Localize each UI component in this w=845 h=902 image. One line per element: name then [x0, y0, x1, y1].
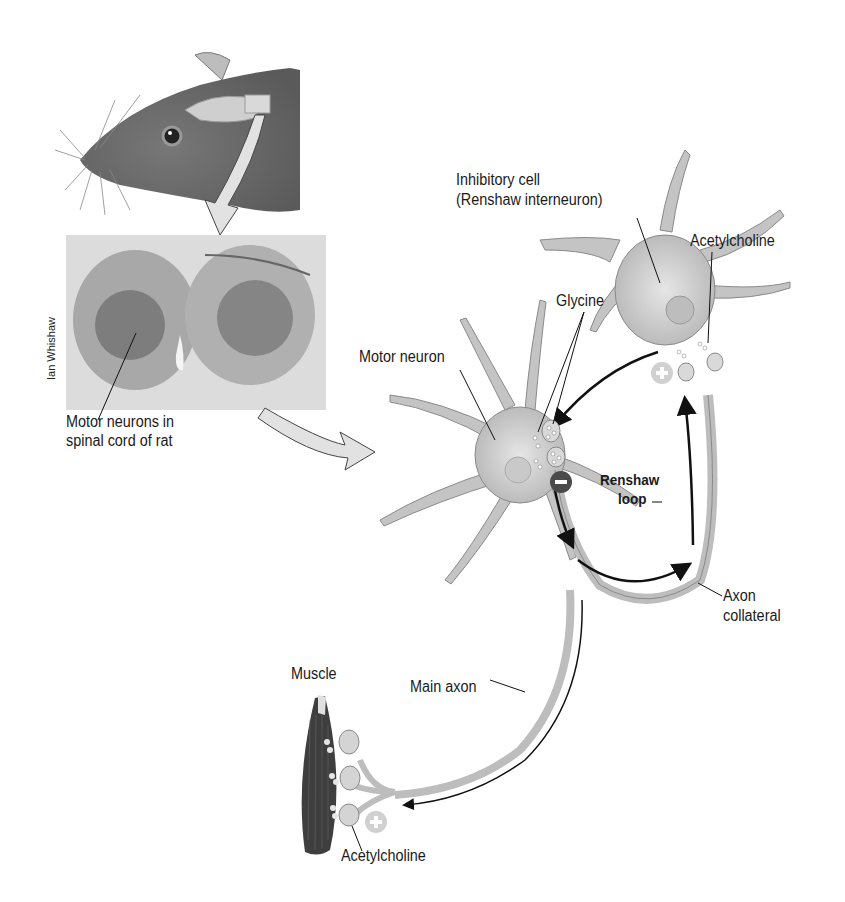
diagram-artwork — [0, 0, 845, 902]
renshaw-loop-diagram: Ian Whishaw Motor neurons in spinal cord… — [0, 0, 845, 902]
photo-credit: Ian Whishaw — [45, 317, 57, 380]
label-inhibitory-cell-line2: (Renshaw interneuron) — [456, 190, 602, 209]
acetylcholine-terminals-top — [677, 342, 723, 381]
label-axon-collateral-line2: collateral — [723, 606, 781, 625]
label-renshaw-loop-line1: Renshaw — [600, 470, 659, 489]
muscle-illustration — [302, 695, 339, 855]
label-axon-collateral-line1: Axon — [723, 586, 756, 605]
label-muscle: Muscle — [291, 664, 337, 683]
inhibitory-minus-icon — [550, 471, 572, 493]
excitatory-plus-icon-bottom — [365, 811, 387, 833]
collateral-up-arrow — [685, 400, 693, 545]
neuromuscular-terminals — [339, 730, 395, 826]
label-spinal-cord-line2: spinal cord of rat — [66, 431, 172, 450]
rat-head-illustration — [55, 52, 300, 235]
renshaw-inhibit-arrow — [555, 352, 658, 425]
label-renshaw-loop-line2: loop — [618, 489, 646, 508]
label-main-axon: Main axon — [410, 677, 476, 696]
label-spinal-cord-line1: Motor neurons in — [66, 412, 174, 431]
arrow-to-motor-neuron — [258, 408, 375, 470]
spinal-cord-section-photo — [66, 235, 326, 420]
label-acetylcholine-bottom: Acetylcholine — [341, 846, 426, 865]
motor-neuron — [380, 300, 640, 584]
label-glycine: Glycine — [556, 291, 604, 310]
excitatory-plus-icon-top — [651, 362, 673, 384]
label-inhibitory-cell-line1: Inhibitory cell — [456, 170, 540, 189]
label-acetylcholine-top: Acetylcholine — [690, 231, 775, 250]
label-motor-neuron: Motor neuron — [359, 347, 445, 366]
